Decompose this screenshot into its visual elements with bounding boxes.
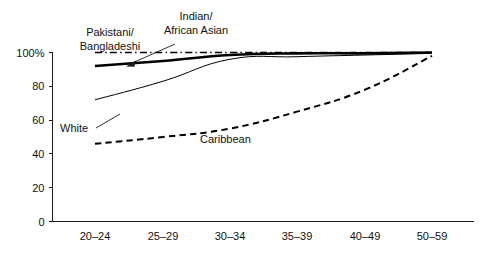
x-axis-tick-label: 50–59	[417, 230, 448, 242]
series-layer	[95, 53, 432, 144]
white-leader-line	[96, 114, 120, 128]
caribbean-label: Caribbean	[200, 133, 251, 145]
series-line-caribbean	[95, 56, 432, 144]
axis-layer	[49, 52, 475, 222]
pakistani-bangladeshi-label: Pakistani/Bangladeshi	[80, 26, 141, 52]
y-axis-tick-label: 100%	[16, 47, 44, 59]
y-axis-tick-label: 80	[32, 80, 44, 92]
line-chart: 020406080100%20–2425–2930–3435–3940–4950…	[0, 0, 481, 273]
annotation-layer: Pakistani/BangladeshiIndian/African Asia…	[60, 10, 251, 145]
white-label: White	[60, 122, 88, 134]
annotation-line: African Asian	[164, 24, 228, 36]
x-axis-tick-label: 30–34	[215, 230, 246, 242]
x-axis-tick-label: 25–29	[148, 230, 179, 242]
annotation-line: White	[60, 122, 88, 134]
annotation-line: Caribbean	[200, 133, 251, 145]
annotation-line: Pakistani/	[86, 26, 135, 38]
x-axis-tick-label: 20–24	[80, 230, 111, 242]
annotation-line: Bangladeshi	[80, 40, 141, 52]
y-axis-tick-label: 40	[32, 148, 44, 160]
y-axis-tick-label: 0	[38, 216, 44, 228]
y-axis-tick-label: 20	[32, 182, 44, 194]
indian-african-asian-label: Indian/African Asian	[164, 10, 228, 36]
x-axis-tick-label: 35–39	[282, 230, 313, 242]
chart-container: 020406080100%20–2425–2930–3435–3940–4950…	[0, 0, 481, 273]
series-line-white	[95, 53, 432, 99]
x-axis-tick-label: 40–49	[350, 230, 381, 242]
y-axis-tick-label: 60	[32, 114, 44, 126]
annotation-line: Indian/	[179, 10, 213, 22]
